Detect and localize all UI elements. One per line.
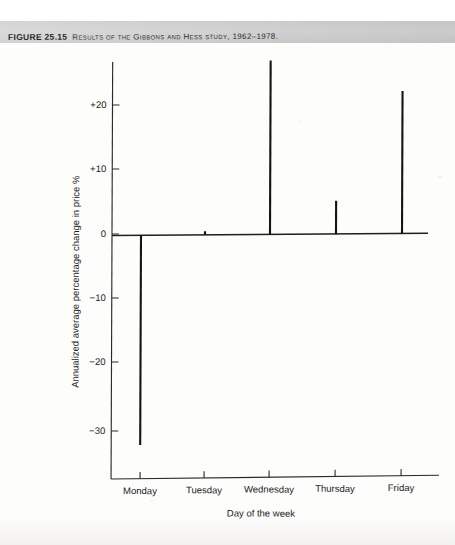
y-tick-label-0: 0 bbox=[101, 228, 106, 239]
y-tick-label-20p: +20 bbox=[90, 99, 106, 110]
chart-container: +20 +10 0 −10 −20 −30 Annualized average… bbox=[0, 43, 455, 545]
x-tick-label-wednesday: Wednesday bbox=[244, 484, 294, 495]
spike-wednesday bbox=[270, 61, 271, 235]
x-tick-label-friday: Friday bbox=[388, 482, 415, 493]
figure-caption: FIGURE 25.15Results of the Gibbons and H… bbox=[8, 25, 278, 43]
x-tick-label-thursday: Thursday bbox=[315, 483, 355, 494]
y-axis-line bbox=[111, 62, 113, 479]
chart-svg: +20 +10 0 −10 −20 −30 Annualized average… bbox=[0, 43, 455, 545]
page-background: FIGURE 25.15Results of the Gibbons and H… bbox=[0, 0, 455, 545]
spike-plot: +20 +10 0 −10 −20 −30 Annualized average… bbox=[0, 43, 455, 545]
figure-number: FIGURE 25.15 bbox=[8, 32, 67, 42]
x-tick-label-tuesday: Tuesday bbox=[186, 484, 222, 495]
y-tick-label-30n: −30 bbox=[89, 425, 105, 436]
y-tick-label-10p: +10 bbox=[90, 163, 106, 174]
x-tick-label-monday: Monday bbox=[123, 485, 157, 496]
scan-bottom-margin bbox=[0, 519, 455, 545]
spike-friday bbox=[402, 91, 403, 234]
x-axis-line bbox=[111, 474, 439, 480]
x-axis-title: Day of the week bbox=[227, 507, 295, 518]
y-axis-title: Annualized average percentage change in … bbox=[69, 175, 81, 388]
scan-top-margin bbox=[0, 0, 455, 20]
y-tick-label-10n: −10 bbox=[90, 292, 106, 303]
spike-monday bbox=[140, 235, 141, 445]
figure-caption-band: FIGURE 25.15Results of the Gibbons and H… bbox=[0, 21, 455, 43]
figure-title: Results of the Gibbons and Hess study, 1… bbox=[72, 32, 278, 42]
y-tick-label-20n: −20 bbox=[89, 356, 105, 367]
